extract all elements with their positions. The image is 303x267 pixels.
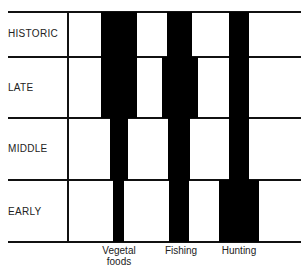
row-label-middle: MIDDLE xyxy=(8,143,48,154)
label-divider xyxy=(67,11,69,243)
bar-vegetal-historic xyxy=(101,12,137,57)
bar-fishing-middle xyxy=(168,118,190,180)
column-label-fishing-line1: Fishing xyxy=(156,245,206,256)
column-label-vegetal-line2: foods xyxy=(94,256,144,267)
bar-vegetal-late xyxy=(101,57,137,118)
bar-fishing-historic xyxy=(167,12,192,57)
column-label-hunting: Hunting xyxy=(214,245,264,256)
row-label-historic: HISTORIC xyxy=(8,28,58,39)
row-label-early: EARLY xyxy=(8,206,42,217)
bar-hunting-historic xyxy=(229,12,249,57)
bar-vegetal-middle xyxy=(110,118,128,180)
column-label-vegetal-line1: Vegetal xyxy=(94,245,144,256)
grid-line-late-middle xyxy=(8,117,301,119)
column-label-vegetal: Vegetal foods xyxy=(94,245,144,267)
bar-fishing-early xyxy=(169,180,189,242)
grid-line-top xyxy=(8,11,301,13)
bar-hunting-middle xyxy=(229,118,249,180)
column-label-hunting-line1: Hunting xyxy=(214,245,264,256)
row-label-late: LATE xyxy=(8,82,33,93)
bar-vegetal-early xyxy=(113,180,124,242)
bar-hunting-late xyxy=(229,57,249,118)
bar-fishing-late xyxy=(162,57,198,118)
column-label-fishing: Fishing xyxy=(156,245,206,256)
bar-hunting-early xyxy=(219,180,259,242)
grid-line-historic-late xyxy=(8,56,301,58)
